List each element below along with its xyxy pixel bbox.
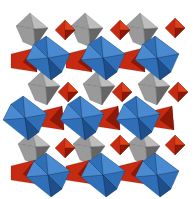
red-tetrahedron-face (65, 30, 75, 40)
red-tetrahedron-face (175, 18, 185, 28)
red-tetrahedron-face (175, 28, 185, 38)
polyhedra-canvas (0, 0, 195, 199)
gray-polyhedron-face (46, 86, 60, 105)
red-tetrahedron-face (65, 148, 75, 158)
crystal-structure-figure (0, 0, 195, 199)
gray-polyhedron-face (156, 86, 170, 105)
red-tetrahedron-face (68, 82, 78, 92)
gray-polyhedron-face (101, 86, 115, 105)
red-tetrahedron-face (120, 135, 130, 145)
red-tetrahedron-face (178, 92, 188, 102)
red-tetrahedron-face (175, 135, 185, 145)
red-tetrahedron-face (178, 82, 188, 92)
red-tetrahedron-face (120, 30, 130, 40)
red-tetrahedron-face (175, 145, 185, 155)
red-tetrahedron-face (120, 145, 130, 155)
gray-polyhedron-face (16, 26, 35, 47)
red-tetrahedron-face (122, 82, 132, 92)
red-tetrahedron-face (65, 138, 75, 148)
